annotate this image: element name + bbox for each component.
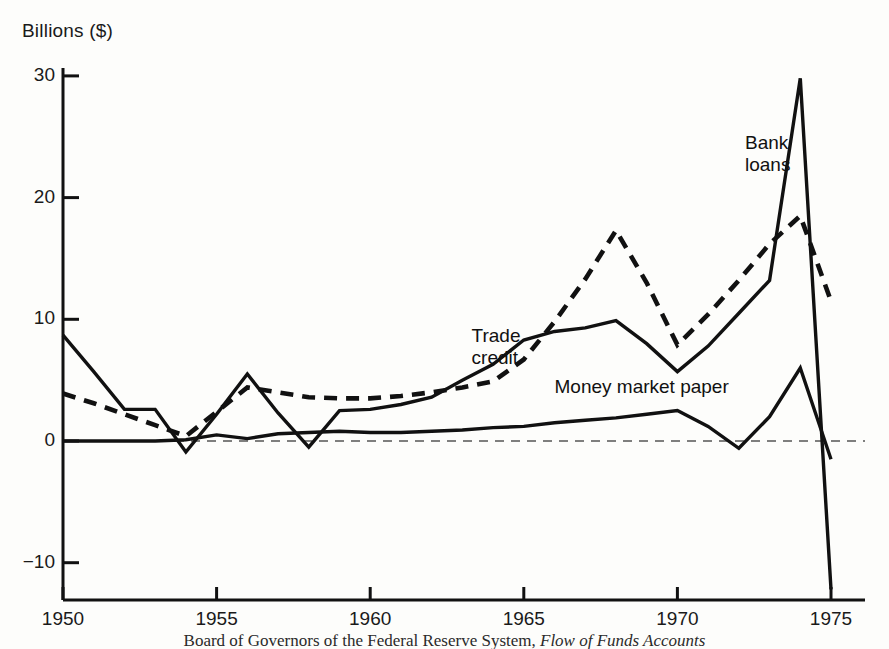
- series-label-bank-loans: Bank loans: [745, 132, 790, 176]
- series-label-trade-credit: Trade credit: [472, 325, 521, 369]
- y-tick-label: 20: [9, 186, 55, 208]
- series-line-trade-credit: [63, 216, 831, 436]
- y-tick-label: 30: [9, 64, 55, 86]
- series-label-money-market-paper: Money market paper: [555, 376, 729, 398]
- chart-plot-area: [0, 0, 889, 649]
- x-tick-label: 1975: [796, 608, 866, 630]
- figure-source-caption: Board of Governors of the Federal Reserv…: [0, 631, 889, 649]
- x-tick-label: 1965: [489, 608, 559, 630]
- y-tick-label: 0: [9, 429, 55, 451]
- caption-italic-title: Flow of Funds Accounts: [540, 631, 705, 649]
- y-tick-label: −10: [9, 551, 55, 573]
- x-tick-label: 1960: [335, 608, 405, 630]
- chart-series-lines: [63, 78, 831, 589]
- series-line-bank-loans: [63, 78, 831, 589]
- chart-container: Billions ($) 3020100−10 1950195519601965…: [0, 0, 889, 649]
- x-tick-label: 1950: [28, 608, 98, 630]
- x-tick-label: 1955: [182, 608, 252, 630]
- y-tick-label: 10: [9, 307, 55, 329]
- caption-prefix: Board of Governors of the Federal Reserv…: [184, 631, 540, 649]
- x-tick-label: 1970: [642, 608, 712, 630]
